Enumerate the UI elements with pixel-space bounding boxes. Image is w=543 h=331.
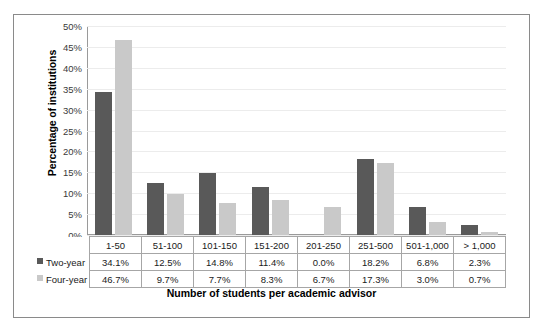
table-column-header: 151-200 [246,237,298,254]
legend-swatch-icon [37,275,43,281]
table-column-header: 51-100 [142,237,194,254]
legend-entry-two-year: Two-year [35,254,90,271]
y-axis-tick-label: 25% [63,125,82,136]
table-header-row: 1-5051-100101-150151-200201-250251-50050… [35,237,506,254]
legend-label: Two-year [46,257,85,268]
y-axis-tick-label: 35% [63,83,82,94]
table-cell: 3.0% [402,271,454,288]
bar [199,173,216,235]
bar [95,92,112,235]
bar-group [192,26,244,235]
table-column-header: 251-500 [350,237,402,254]
table-column-header: 501-1,000 [402,237,454,254]
bar-group [349,26,401,235]
y-axis-tick-label: 20% [63,146,82,157]
table-cell: 12.5% [142,254,194,271]
y-axis-tick-label: 30% [63,104,82,115]
data-table-body: 1-5051-100101-150151-200201-250251-50050… [35,237,506,288]
table-cell: 6.7% [298,271,350,288]
data-table: 1-5051-100101-150151-200201-250251-50050… [35,236,506,288]
table-row: Two-year34.1%12.5%14.8%11.4%0.0%18.2%6.8… [35,254,506,271]
table-cell: 34.1% [90,254,142,271]
bar [115,40,132,235]
table-column-header: 1-50 [90,237,142,254]
bar-group [401,26,453,235]
bar [481,232,498,235]
table-row: Four-year46.7%9.7%7.7%8.3%6.7%17.3%3.0%0… [35,271,506,288]
table-cell: 14.8% [194,254,246,271]
table-corner-cell [35,237,90,254]
bar [409,207,426,235]
y-axis-tick-label: 15% [63,167,82,178]
table-cell: 7.7% [194,271,246,288]
bar [219,203,236,235]
bar [461,225,478,235]
y-axis-tick-label: 45% [63,41,82,52]
table-column-header: 101-150 [194,237,246,254]
bar [324,207,341,235]
bar [167,194,184,235]
table-cell: 6.8% [402,254,454,271]
bar-group [297,26,349,235]
table-cell: 17.3% [350,271,402,288]
y-axis-tick-label: 40% [63,62,82,73]
bar-group [244,26,296,235]
bar [377,163,394,235]
table-cell: 0.0% [298,254,350,271]
table-cell: 18.2% [350,254,402,271]
bar-group [454,26,506,235]
table-column-header: 201-250 [298,237,350,254]
bar-group [87,26,139,235]
y-axis-title: Percentage of institutions [46,23,58,203]
table-cell: 11.4% [246,254,298,271]
chart-figure: Percentage of institutions 50%45%40%35%3… [13,14,530,318]
legend-label: Four-year [46,274,87,285]
y-axis-tick-label: 50% [63,21,82,32]
legend-swatch-icon [37,258,43,264]
bar [252,187,269,235]
plot-area: 50%45%40%35%30%25%20%15%10%5%0% [87,26,506,235]
table-cell: 0.7% [454,271,506,288]
bar [429,222,446,235]
table-cell: 2.3% [454,254,506,271]
x-axis-title: Number of students per academic advisor [14,287,529,299]
bar [272,200,289,235]
y-axis-tick-label: 5% [68,209,82,220]
legend-entry-four-year: Four-year [35,271,90,288]
y-axis-tick-label: 10% [63,188,82,199]
bar [357,159,374,235]
bar-groups [87,26,506,235]
bar [147,183,164,235]
table-column-header: > 1,000 [454,237,506,254]
table-cell: 46.7% [90,271,142,288]
table-cell: 8.3% [246,271,298,288]
bar-group [139,26,191,235]
table-cell: 9.7% [142,271,194,288]
